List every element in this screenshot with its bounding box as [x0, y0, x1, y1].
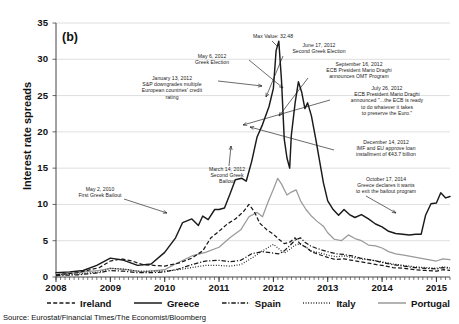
x-tick-label-2013: 2013	[305, 282, 351, 293]
legend-swatch-spain	[221, 299, 251, 307]
y-tick-label-35: 35	[26, 17, 48, 28]
legend-label: Ireland	[80, 298, 111, 309]
annotation-may-2012: May 6, 2012 Greek Election	[175, 53, 249, 65]
y-tick-label-30: 30	[26, 53, 48, 64]
chart-legend: IrelandGreeceSpainItalyPortugal	[46, 296, 450, 310]
annotation-oct-2014: October 17, 2014 Greece declares it want…	[330, 176, 442, 195]
legend-swatch-ireland	[46, 299, 76, 307]
y-tick-label-10: 10	[26, 198, 48, 209]
annotation-jan-2012: January 13, 2012 S&P downgrades multiple…	[124, 75, 220, 100]
legend-label: Spain	[255, 298, 281, 309]
legend-swatch-portugal	[377, 299, 407, 307]
x-tick-label-2012: 2012	[250, 282, 296, 293]
x-tick-label-2011: 2011	[196, 282, 242, 293]
annotation-may-2010: May 2, 2010 First Greek Bailout	[58, 186, 142, 198]
annotation-jul-2012: July 26, 2012 ECB President Mario Draghi…	[326, 85, 448, 116]
annotation-dec-2012: December 14, 2012 IMF and EU approve loa…	[330, 139, 442, 158]
legend-item-portugal: Portugal	[377, 298, 450, 309]
y-tick-marks	[53, 23, 57, 277]
legend-item-greece: Greece	[133, 298, 200, 309]
annotation-mar-2012: March 14, 2012 Second Greek Bailout	[196, 166, 258, 185]
legend-label: Greece	[167, 298, 200, 309]
y-tick-label-15: 15	[26, 162, 48, 173]
x-tick-label-2010: 2010	[142, 282, 188, 293]
y-tick-label-25: 25	[26, 90, 48, 101]
x-tick-label-2014: 2014	[359, 282, 405, 293]
figure-panel-b: Interest rate spreads (b) 05101520253035…	[0, 0, 459, 324]
y-tick-label-0: 0	[26, 271, 48, 282]
legend-label: Portugal	[411, 298, 450, 309]
source-note: Source: Eurostat/Financial Times/The Eco…	[3, 313, 206, 322]
y-tick-label-20: 20	[26, 126, 48, 137]
legend-label: Italy	[336, 298, 355, 309]
chart-canvas	[0, 0, 459, 324]
annotation-jun-2012: June 17, 2012 Second Greek Election	[275, 42, 363, 54]
y-tick-label-5: 5	[26, 235, 48, 246]
x-tick-label-2015: 2015	[413, 282, 459, 293]
legend-item-spain: Spain	[221, 298, 281, 309]
annotation-max-value: Max Value: 32.48	[238, 33, 308, 39]
legend-swatch-greece	[133, 299, 163, 307]
legend-swatch-italy	[302, 299, 332, 307]
x-tick-label-2008: 2008	[33, 282, 79, 293]
gridlines	[56, 23, 450, 241]
annotation-sep-2012: September 16, 2012 ECB President Mario D…	[298, 61, 420, 80]
legend-item-italy: Italy	[302, 298, 355, 309]
legend-item-ireland: Ireland	[46, 298, 111, 309]
x-tick-label-2009: 2009	[87, 282, 133, 293]
